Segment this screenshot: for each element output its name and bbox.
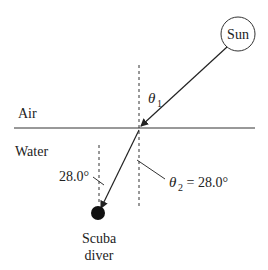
svg-text:Scuba: Scuba xyxy=(82,231,117,246)
svg-text:diver: diver xyxy=(85,248,114,263)
svg-text:θ: θ xyxy=(169,174,177,190)
water-label: Water xyxy=(15,144,48,159)
svg-text:= 28.0°: = 28.0° xyxy=(183,175,228,190)
scuba-diver-dot xyxy=(91,206,105,220)
theta2-label: θ 2 = 28.0° xyxy=(169,174,228,193)
sun: Sun xyxy=(221,17,255,51)
air-label: Air xyxy=(18,106,37,121)
refracted-ray xyxy=(101,130,139,208)
svg-text:θ: θ xyxy=(148,90,156,106)
scuba-diver-label: Scuba diver xyxy=(82,231,117,263)
theta2-leader xyxy=(137,160,165,179)
theta1-label: θ 1 xyxy=(148,90,162,109)
incident-ray xyxy=(141,47,227,126)
svg-text:1: 1 xyxy=(157,98,162,109)
diver-angle-label: 28.0° xyxy=(59,169,89,184)
sun-label: Sun xyxy=(227,27,249,42)
refraction-diagram: Sun Air Water θ 1 θ 2 = 28.0° 28.0° Scub… xyxy=(0,0,268,270)
